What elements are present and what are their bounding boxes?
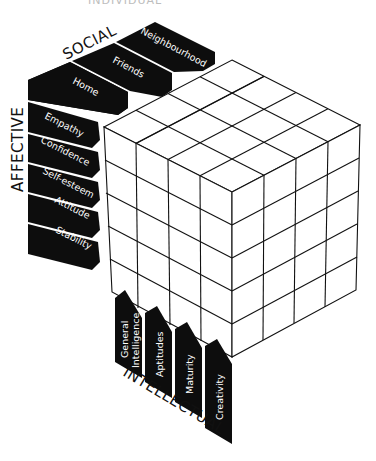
cube-diagram: INDIVIDUAL Home Friends Neighbourhood SO… xyxy=(0,0,376,461)
intellectual-item-general: General xyxy=(119,321,130,358)
intellectual-item-intelligence: Intelligence xyxy=(130,313,141,368)
affective-axis-title: AFFECTIVE xyxy=(9,107,27,192)
cube xyxy=(104,60,360,357)
intellectual-item-maturity: Maturity xyxy=(184,354,195,394)
intellectual-item-aptitudes: Aptitudes xyxy=(154,331,165,377)
intellectual-item-creativity: Creativity xyxy=(214,374,225,420)
affective-axis: Empathy Confidence Self-esteem Attitude … xyxy=(9,102,100,270)
clipped-title: INDIVIDUAL xyxy=(88,0,162,7)
